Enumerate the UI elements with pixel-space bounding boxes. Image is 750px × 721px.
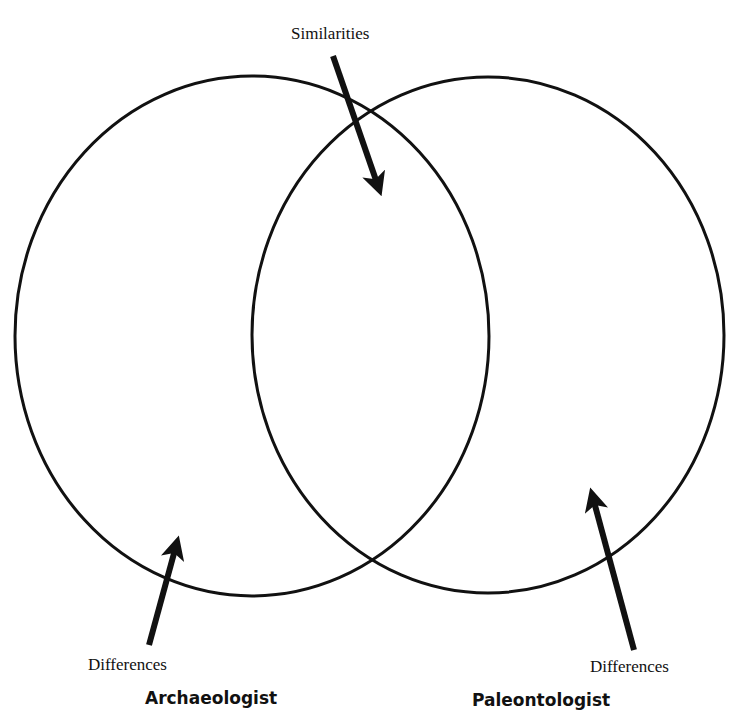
venn-diagram: Similarities Differences Differences Arc… (0, 0, 750, 721)
right-differences-label: Differences (590, 657, 669, 676)
archaeologist-title: Archaeologist (145, 688, 277, 708)
right-differences-arrow-icon (593, 498, 634, 650)
paleontologist-title: Paleontologist (472, 690, 610, 710)
left-differences-label: Differences (88, 655, 167, 674)
left-differences-arrow-icon (149, 546, 176, 645)
similarities-label: Similarities (291, 24, 369, 43)
similarities-arrow-icon (333, 56, 378, 186)
